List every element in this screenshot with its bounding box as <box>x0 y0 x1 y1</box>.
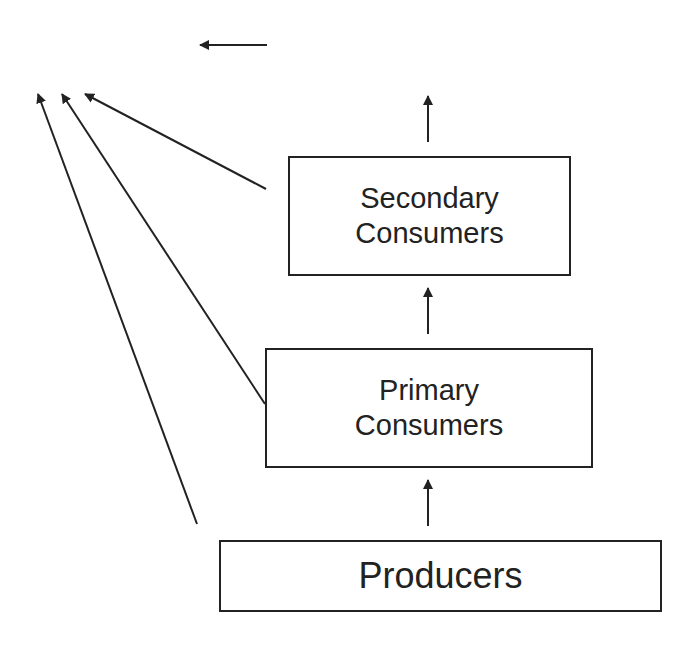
box-label-line: Consumers <box>355 216 503 251</box>
heat-arrow-secondary <box>85 94 266 189</box>
secondary-consumers-box: Secondary Consumers <box>288 156 571 276</box>
box-label-line: Producers <box>358 554 522 597</box>
box-label-line: Consumers <box>355 408 503 443</box>
heat-arrow-producers <box>38 94 197 524</box>
box-label-line: Primary <box>379 373 479 408</box>
heat-arrow-primary <box>62 94 265 404</box>
primary-consumers-box: Primary Consumers <box>265 348 593 468</box>
box-label-line: Secondary <box>360 181 499 216</box>
producers-box: Producers <box>219 540 662 612</box>
